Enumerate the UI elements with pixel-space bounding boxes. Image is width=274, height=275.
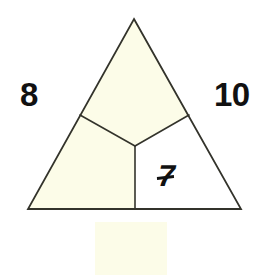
scan-artifact-rectangle	[95, 222, 167, 275]
side-label-left: 8	[20, 78, 38, 111]
region-label-interior: 7	[157, 161, 175, 191]
side-label-right: 10	[214, 78, 250, 111]
triangle-diagram	[0, 0, 274, 275]
geometry-figure: 8 10 7	[0, 0, 274, 275]
